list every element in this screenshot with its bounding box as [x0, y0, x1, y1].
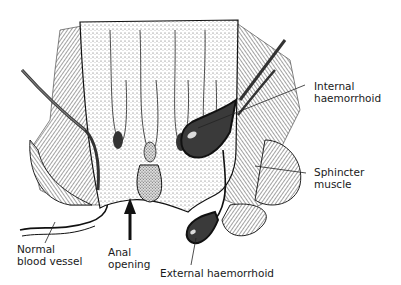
- label-normal-blood-vessel: Normal blood vessel: [17, 243, 82, 267]
- label-line: Normal: [17, 243, 82, 255]
- label-line: blood vessel: [17, 255, 82, 267]
- label-line: muscle: [314, 178, 364, 190]
- label-line: Internal: [314, 80, 381, 92]
- label-line: haemorrhoid: [314, 92, 381, 104]
- anal-opening-arrow-icon: [124, 198, 136, 240]
- label-line: External haemorrhoid: [160, 267, 274, 279]
- label-line: Sphincter: [314, 166, 364, 178]
- label-external-haemorrhoid: External haemorrhoid: [160, 267, 274, 279]
- external-haemorrhoid-shape: [187, 212, 218, 243]
- label-anal-opening: Anal opening: [108, 246, 150, 270]
- label-line: Anal: [108, 246, 150, 258]
- label-sphincter-muscle: Sphincter muscle: [314, 166, 364, 190]
- label-internal-haemorrhoid: Internal haemorrhoid: [314, 80, 381, 104]
- label-line: opening: [108, 258, 150, 270]
